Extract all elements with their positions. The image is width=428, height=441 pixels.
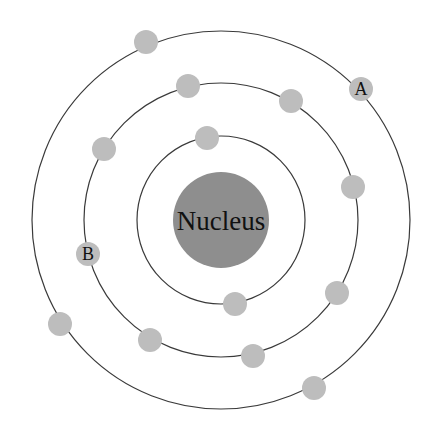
electron-label-a: A: [355, 79, 368, 99]
electron: [138, 328, 162, 352]
electron-label-b: B: [82, 244, 94, 264]
electron: [195, 126, 219, 150]
electron: [134, 30, 158, 54]
electron: [92, 137, 116, 161]
electron: [325, 281, 349, 305]
nucleus-label: Nucleus: [177, 206, 265, 236]
electron: [341, 175, 365, 199]
atom-diagram: Nucleus BA: [0, 0, 428, 441]
electron: [241, 344, 265, 368]
electron: [48, 312, 72, 336]
electron: [176, 74, 200, 98]
electron: [223, 292, 247, 316]
electron: [279, 89, 303, 113]
electron: [302, 376, 326, 400]
